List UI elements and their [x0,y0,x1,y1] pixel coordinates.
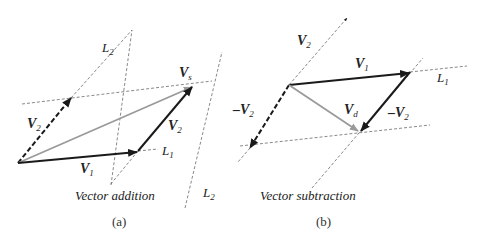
label-Vs: Vs [179,65,192,82]
guide-line-L1 [138,149,158,151]
guide-line-top [22,81,212,104]
panel-a: L2 V2 V1 V2 Vs L1 Vector addition (a) [18,30,222,229]
label-L2-bottom: L2 [202,185,215,202]
label-negV2-left: –V2 [232,102,254,119]
vector-V1 [289,73,409,85]
label-L1: L1 [436,70,449,87]
guide-line-L2-left [111,30,132,185]
label-V2-right: V2 [168,118,182,135]
label-Vd: Vd [344,102,358,119]
guide-line-L2-lower-left [110,151,138,185]
title-vector-subtraction: Vector subtraction [260,188,356,203]
vector-V1 [18,152,137,163]
label-V1: V1 [80,161,94,178]
caption-a: (a) [112,214,126,229]
vector-negV2 [361,72,410,131]
vector-negV2-dashed [250,85,289,148]
label-L2-top: L2 [101,40,114,57]
guide-line-lower [240,125,430,146]
label-V1: V1 [355,56,369,73]
vector-V2 [138,87,192,151]
label-negV2-right: –V2 [387,105,409,122]
vector-diagram: L2 V2 V1 V2 Vs L1 Vector addition (a) V2… [0,0,485,238]
guide-line-V2-direction [289,18,347,85]
panel-b: V2 V1 L1 –V2 Vd –V2 L2 Vector subtractio… [202,18,467,229]
label-V2-top: V2 [297,33,311,50]
label-L1: L1 [161,143,174,160]
label-V2-left: V2 [27,116,41,133]
title-vector-addition: Vector addition [75,188,155,203]
caption-b: (b) [316,214,331,229]
vector-V2-dashed [18,98,71,163]
guide-line-L2-far-left [238,148,250,162]
